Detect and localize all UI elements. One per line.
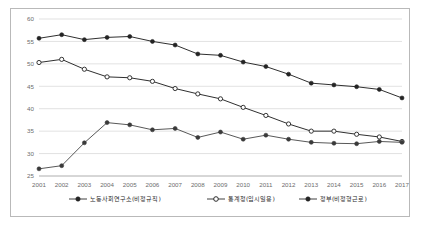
data-point-marker	[309, 140, 313, 144]
legend-label: 정부(비정형근로)	[320, 195, 367, 203]
data-point-marker	[37, 36, 41, 40]
x-tick-label: 2007	[168, 181, 182, 188]
y-tick-label: 30	[27, 150, 34, 157]
data-point-marker	[264, 133, 268, 137]
y-tick-label: 55	[27, 38, 34, 45]
data-point-marker	[82, 38, 86, 42]
data-point-marker	[332, 141, 336, 145]
x-tick-label: 2001	[32, 181, 46, 188]
x-tick-label: 2015	[350, 181, 364, 188]
data-point-marker	[264, 113, 268, 117]
data-point-marker	[150, 128, 154, 132]
legend-label: 노동사회연구소(비정규직)	[90, 195, 161, 203]
y-tick-label: 35	[27, 127, 34, 134]
data-point-marker	[287, 137, 291, 141]
legend-item[interactable]: 정부(비정형근로)	[299, 195, 367, 203]
data-point-marker	[377, 87, 381, 91]
data-series	[37, 33, 404, 100]
data-point-marker	[241, 137, 245, 141]
data-point-marker	[105, 75, 109, 79]
x-tick-label: 2017	[395, 181, 409, 188]
legend-label: 통계청(임시일용)	[228, 195, 275, 203]
data-point-marker	[309, 81, 313, 85]
data-point-marker	[241, 60, 245, 64]
y-axis-tick-labels: 2530354045505560	[27, 15, 34, 179]
data-point-marker	[219, 130, 223, 134]
data-series-group	[37, 33, 404, 171]
x-tick-label: 2014	[327, 181, 341, 188]
data-point-marker	[60, 57, 64, 61]
data-point-marker	[377, 135, 381, 139]
data-point-marker	[128, 34, 132, 38]
y-tick-label: 50	[27, 60, 34, 67]
chart-frame: 2530354045505560 20012002200320042005200…	[10, 8, 410, 217]
data-point-marker	[82, 67, 86, 71]
legend-marker	[76, 197, 80, 201]
x-tick-label: 2006	[146, 181, 160, 188]
data-point-marker	[173, 43, 177, 47]
x-tick-label: 2008	[191, 181, 205, 188]
x-tick-label: 2005	[123, 181, 137, 188]
x-axis-tick-labels: 2001200220032004200520062007200820092010…	[32, 181, 409, 188]
data-point-marker	[150, 39, 154, 43]
data-point-marker	[60, 164, 64, 168]
data-point-marker	[196, 52, 200, 56]
data-point-marker	[241, 105, 245, 109]
x-tick-label: 2012	[282, 181, 296, 188]
data-point-marker	[355, 132, 359, 136]
data-point-marker	[400, 96, 404, 100]
x-tick-label: 2003	[77, 181, 91, 188]
data-point-marker	[355, 142, 359, 146]
data-point-marker	[37, 167, 41, 171]
data-point-marker	[400, 140, 404, 144]
data-point-marker	[332, 83, 336, 87]
data-point-marker	[150, 79, 154, 83]
chart-figure: 2530354045505560 20012002200320042005200…	[0, 0, 421, 230]
y-tick-label: 60	[27, 15, 34, 22]
data-point-marker	[196, 135, 200, 139]
x-tick-label: 2002	[55, 181, 69, 188]
data-point-marker	[309, 129, 313, 133]
data-series	[37, 121, 404, 171]
x-tick-label: 2016	[372, 181, 386, 188]
data-point-marker	[173, 126, 177, 130]
y-tick-label: 45	[27, 83, 34, 90]
x-tick-label: 2009	[214, 181, 228, 188]
data-point-marker	[377, 139, 381, 143]
data-point-marker	[82, 141, 86, 145]
x-tick-label: 2011	[259, 181, 273, 188]
legend-item[interactable]: 통계청(임시일용)	[207, 195, 275, 203]
line-chart: 2530354045505560 20012002200320042005200…	[11, 9, 409, 216]
data-point-marker	[128, 123, 132, 127]
chart-legend: 노동사회연구소(비정규직)통계청(임시일용)정부(비정형근로)	[69, 195, 367, 203]
legend-item[interactable]: 노동사회연구소(비정규직)	[69, 195, 161, 203]
data-point-marker	[105, 35, 109, 39]
data-point-marker	[128, 76, 132, 80]
legend-marker	[214, 197, 219, 202]
y-tick-label: 40	[27, 105, 34, 112]
data-point-marker	[355, 85, 359, 89]
data-point-marker	[219, 53, 223, 57]
data-point-marker	[286, 122, 290, 126]
y-tick-label: 25	[27, 172, 34, 179]
x-tick-label: 2013	[304, 181, 318, 188]
x-tick-label: 2004	[100, 181, 114, 188]
data-point-marker	[196, 92, 200, 96]
data-point-marker	[264, 65, 268, 69]
series-line	[39, 123, 402, 169]
data-point-marker	[105, 121, 109, 125]
data-point-marker	[173, 86, 177, 90]
series-line	[39, 35, 402, 98]
data-point-marker	[37, 60, 41, 64]
data-point-marker	[332, 129, 336, 133]
legend-marker	[306, 197, 310, 201]
data-point-marker	[287, 72, 291, 76]
data-point-marker	[218, 97, 222, 101]
x-tick-label: 2010	[236, 181, 250, 188]
data-point-marker	[60, 33, 64, 37]
